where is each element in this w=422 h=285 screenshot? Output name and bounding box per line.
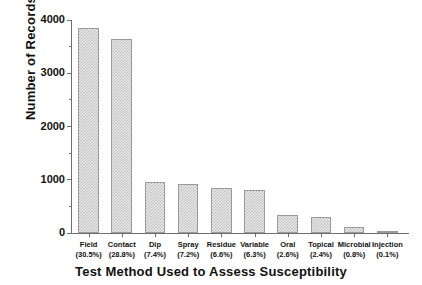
y-tick-label: 4000 bbox=[41, 13, 65, 25]
bar[interactable] bbox=[145, 182, 166, 233]
y-tick-label: 0 bbox=[59, 226, 65, 238]
x-tick-label: Field(30.5%) bbox=[75, 240, 101, 260]
x-tick-category: Injection bbox=[372, 240, 403, 249]
x-tick-label: Topical(2.4%) bbox=[308, 240, 334, 260]
x-tick-mark bbox=[255, 233, 256, 237]
x-tick-percent: (28.8%) bbox=[108, 250, 136, 260]
y-tick-label: 3000 bbox=[41, 66, 65, 78]
x-tick-label: Microbial(0.8%) bbox=[338, 240, 371, 260]
x-tick-label: Residue(6.6%) bbox=[207, 240, 236, 260]
x-axis-title: Test Method Used to Assess Susceptibilit… bbox=[0, 264, 422, 279]
x-tick-mark bbox=[188, 233, 189, 237]
bar-group: Microbial(0.8%) bbox=[338, 20, 371, 233]
bar-group: Variable(6.3%) bbox=[238, 20, 271, 233]
x-tick-percent: (6.6%) bbox=[207, 250, 236, 260]
x-tick-mark bbox=[155, 233, 156, 237]
bar-chart-figure: Number of Records 01000200030004000 Fiel… bbox=[0, 0, 422, 285]
x-tick-mark bbox=[89, 233, 90, 237]
x-tick-label: Injection(0.1%) bbox=[372, 240, 403, 260]
x-tick-percent: (2.4%) bbox=[308, 250, 334, 260]
x-tick-mark bbox=[221, 233, 222, 237]
x-tick-percent: (30.5%) bbox=[75, 250, 101, 260]
x-tick-category: Contact bbox=[108, 240, 136, 249]
x-tick-mark bbox=[387, 233, 388, 237]
x-tick-label: Spray(7.2%) bbox=[177, 240, 199, 260]
x-tick-category: Topical bbox=[308, 240, 334, 249]
y-tick-label: 2000 bbox=[41, 120, 65, 132]
x-tick-category: Microbial bbox=[338, 240, 371, 249]
y-tick-label: 1000 bbox=[41, 173, 65, 185]
x-tick-mark bbox=[288, 233, 289, 237]
x-tick-category: Field bbox=[80, 240, 98, 249]
x-tick-label: Oral(2.6%) bbox=[277, 240, 299, 260]
x-tick-percent: (7.4%) bbox=[144, 250, 166, 260]
x-tick-category: Dip bbox=[149, 240, 161, 249]
bar-group: Oral(2.6%) bbox=[271, 20, 304, 233]
bar[interactable] bbox=[277, 215, 298, 233]
x-tick-label: Variable(6.3%) bbox=[240, 240, 269, 260]
bar-group: Injection(0.1%) bbox=[371, 20, 404, 233]
bar[interactable] bbox=[178, 184, 199, 233]
bar-group: Residue(6.6%) bbox=[205, 20, 238, 233]
x-tick-percent: (6.3%) bbox=[240, 250, 269, 260]
x-tick-mark bbox=[321, 233, 322, 237]
x-tick-label: Dip(7.4%) bbox=[144, 240, 166, 260]
bar[interactable] bbox=[111, 39, 132, 233]
x-tick-category: Variable bbox=[240, 240, 269, 249]
x-tick-mark bbox=[122, 233, 123, 237]
bar-group: Spray(7.2%) bbox=[172, 20, 205, 233]
x-tick-percent: (0.8%) bbox=[338, 250, 371, 260]
bar-series: Field(30.5%)Contact(28.8%)Dip(7.4%)Spray… bbox=[72, 20, 404, 233]
bar[interactable] bbox=[211, 188, 232, 233]
x-tick-label: Contact(28.8%) bbox=[108, 240, 136, 260]
bar-group: Contact(28.8%) bbox=[105, 20, 138, 233]
x-tick-mark bbox=[354, 233, 355, 237]
bar[interactable] bbox=[311, 217, 332, 234]
bar-group: Topical(2.4%) bbox=[304, 20, 337, 233]
x-tick-category: Residue bbox=[207, 240, 236, 249]
plot-area: 01000200030004000 Field(30.5%)Contact(28… bbox=[72, 20, 404, 233]
x-tick-percent: (0.1%) bbox=[372, 250, 403, 260]
x-tick-category: Spray bbox=[178, 240, 199, 249]
x-tick-category: Oral bbox=[280, 240, 295, 249]
x-tick-percent: (2.6%) bbox=[277, 250, 299, 260]
bar[interactable] bbox=[244, 190, 265, 233]
bar-group: Field(30.5%) bbox=[72, 20, 105, 233]
bar-group: Dip(7.4%) bbox=[138, 20, 171, 233]
bar[interactable] bbox=[78, 28, 99, 233]
x-tick-percent: (7.2%) bbox=[177, 250, 199, 260]
